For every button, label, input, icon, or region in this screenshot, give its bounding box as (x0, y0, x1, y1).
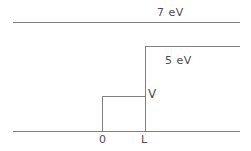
label-barrier-height-v: V (148, 89, 156, 100)
potential-step-svg (0, 0, 251, 151)
label-top-energy: 7 eV (157, 7, 184, 18)
label-axis-origin: 0 (99, 134, 106, 145)
potential-step-diagram: 7 eV 5 eV V 0 L (0, 0, 251, 151)
label-axis-width-l: L (141, 134, 147, 145)
label-step-energy: 5 eV (165, 55, 192, 66)
